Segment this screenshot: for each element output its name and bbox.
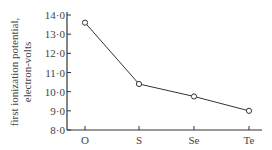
y-tick-label: 12·0 xyxy=(45,47,66,59)
x-tick-label: Se xyxy=(189,134,200,146)
x-axis: OSSeTe xyxy=(67,126,262,146)
series-line xyxy=(85,23,249,111)
y-axis-title-line-2: electron-volts xyxy=(21,42,33,102)
y-tick-label: 13·0 xyxy=(45,28,66,40)
x-tick-label: S xyxy=(136,134,142,146)
x-tick-label: Te xyxy=(244,134,255,146)
y-tick-label: 11·0 xyxy=(45,67,65,79)
y-axis: 8·09·010·011·012·013·014·0 xyxy=(45,9,71,136)
data-point-marker xyxy=(82,20,87,25)
data-point-marker xyxy=(191,94,196,99)
y-tick-label: 14·0 xyxy=(45,9,66,21)
x-tick-label: O xyxy=(81,134,89,146)
line-chart: first ionization potential, electron-vol… xyxy=(0,0,272,150)
data-series xyxy=(82,20,251,113)
y-tick-label: 9·0 xyxy=(50,105,65,117)
y-axis-title-line-1: first ionization potential, xyxy=(8,18,20,127)
data-point-marker xyxy=(136,81,141,86)
y-tick-label: 8·0 xyxy=(50,124,65,136)
data-point-marker xyxy=(246,108,251,113)
y-tick-label: 10·0 xyxy=(45,86,66,98)
y-axis-title: first ionization potential, electron-vol… xyxy=(8,18,33,127)
